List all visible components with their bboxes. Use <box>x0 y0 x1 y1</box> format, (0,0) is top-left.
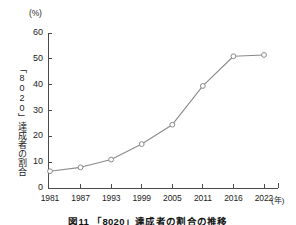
y-tick-label: 10 <box>21 157 43 166</box>
x-tick-label: 1999 <box>125 194 159 203</box>
data-point-marker <box>48 169 53 174</box>
data-point-marker <box>200 84 205 89</box>
x-tick-label: 1987 <box>64 194 98 203</box>
data-point-marker <box>78 165 83 170</box>
figure-caption: 図11 「8020」達成者の割合の推移 <box>0 214 296 225</box>
line-chart-plot <box>0 0 296 225</box>
y-tick-label: 60 <box>21 28 43 37</box>
x-tick-label: 2005 <box>155 194 189 203</box>
x-tick-label: 1981 <box>33 194 67 203</box>
x-tick-label: 1993 <box>94 194 128 203</box>
data-point-marker <box>231 54 236 59</box>
data-point-marker <box>262 53 267 58</box>
data-point-marker <box>109 157 114 162</box>
data-point-markers <box>48 53 267 174</box>
y-tick-label: 40 <box>21 80 43 89</box>
data-point-marker <box>139 142 144 147</box>
data-series-line <box>50 55 264 171</box>
y-tick-label: 50 <box>21 54 43 63</box>
x-tick-label: 2011 <box>186 194 220 203</box>
y-tick-label: 0 <box>21 183 43 192</box>
y-tick-label: 20 <box>21 131 43 140</box>
y-tick-label: 30 <box>21 106 43 115</box>
data-point-marker <box>170 122 175 127</box>
x-axis-unit-label: (年) <box>271 194 284 205</box>
x-tick-label: 2016 <box>216 194 250 203</box>
figure-root: (%) 「8020」達成者の割合 0102030405060 198119871… <box>0 0 296 225</box>
